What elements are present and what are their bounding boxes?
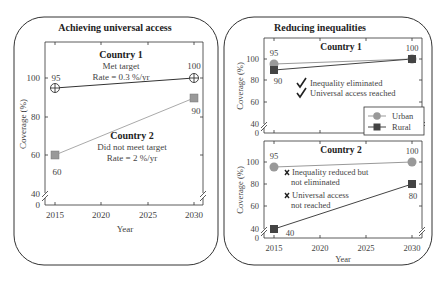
legend-rural-label: Rural	[392, 122, 412, 132]
country1-value-2030: 100	[187, 61, 201, 71]
country2-marker-2030	[190, 94, 198, 102]
country2-marker-2015	[51, 151, 59, 159]
left-panel-title: Achieving universal access	[58, 22, 171, 33]
legend-rural-marker	[374, 124, 381, 131]
x-axis-label: Year	[117, 224, 134, 234]
x-tick-2030: 2030	[185, 210, 204, 220]
bottom-rural-marker-2030	[408, 180, 416, 188]
top-rural-line	[274, 59, 412, 70]
bottom-y-tick-100: 100	[246, 157, 259, 167]
country1-value-2015: 95	[52, 73, 62, 83]
bottom-note-inequality-line1: Inequality reduced but	[292, 167, 369, 177]
country2-value-2030: 90	[192, 106, 202, 116]
top-y-tick-0: 0	[255, 128, 259, 138]
country1-title: Country 1	[99, 49, 143, 60]
bottom-urban-marker-2015	[270, 163, 279, 172]
x-tick-2030: 2030	[404, 243, 421, 253]
check-icon	[297, 88, 306, 97]
legend-urban-marker	[373, 112, 381, 120]
bottom-y-tick-80: 80	[251, 179, 260, 189]
bottom-y-axis-label: Coverage (%)	[235, 166, 245, 214]
top-y-tick-80: 80	[251, 75, 260, 85]
y-tick-0: 0	[36, 200, 41, 210]
top-note-inequality: Inequality eliminated	[310, 78, 383, 88]
bottom-y-tick-0: 0	[255, 233, 259, 243]
check-icon	[297, 78, 306, 87]
left-panel: Achieving universal access 100	[14, 17, 218, 265]
y-tick-40: 40	[31, 189, 41, 199]
top-rural-marker-2015	[270, 66, 278, 74]
top-urban-value-2015: 95	[270, 48, 279, 58]
x-tick-2015: 2015	[266, 243, 283, 253]
x-tick-2020: 2020	[312, 243, 329, 253]
cross-icon	[285, 170, 289, 175]
country1-marker-2015	[51, 84, 60, 93]
top-y-tick-60: 60	[251, 97, 260, 107]
top-subplot-title: Country 1	[320, 42, 362, 52]
y-tick-80: 80	[31, 112, 41, 122]
country2-rate: Rate = 2 %/yr	[107, 153, 157, 163]
bottom-rural-marker-2015	[270, 225, 278, 233]
country2-value-2015: 60	[53, 167, 63, 177]
bottom-note-inequality-line2: not eliminated	[291, 177, 341, 187]
bottom-rural-value-2030: 80	[409, 191, 418, 201]
top-rural-marker-2030	[408, 55, 416, 63]
top-urban-line	[274, 59, 412, 64]
right-panel-title: Reducing inequalities	[274, 22, 366, 33]
top-value-2030: 100	[406, 43, 419, 53]
bottom-note-access-line1: Universal access	[292, 190, 349, 200]
country1-marker-2030	[190, 74, 199, 83]
top-y-tick-100: 100	[246, 54, 259, 64]
bottom-rural-value-2015: 40	[286, 228, 295, 238]
legend: Urban Rural	[364, 107, 424, 135]
x-tick-2025: 2025	[358, 243, 375, 253]
bottom-urban-marker-2030	[408, 158, 417, 167]
right-panel: Reducing inequalities 100 80 60 40 0 Cov…	[224, 17, 432, 265]
x-tick-2015: 2015	[46, 210, 65, 220]
bottom-note-access-line2: not reached	[291, 200, 331, 210]
bottom-subplot-title: Country 2	[320, 145, 362, 155]
legend-urban-label: Urban	[392, 111, 414, 121]
right-x-axis-label: Year	[335, 254, 351, 264]
cross-icon	[285, 193, 289, 198]
x-tick-2025: 2025	[139, 210, 158, 220]
country1-status: Met target	[102, 61, 140, 71]
bottom-y-tick-60: 60	[251, 201, 260, 211]
y-axis-label: Coverage (%)	[18, 99, 28, 149]
top-note-access: Universal access reached	[310, 88, 396, 98]
figure: Achieving universal access 100	[0, 0, 444, 282]
bottom-urban-value-2030: 100	[406, 146, 419, 156]
y-tick-60: 60	[31, 150, 41, 160]
top-rural-value-2015: 90	[274, 76, 283, 86]
country2-title: Country 2	[110, 130, 154, 141]
bottom-urban-value-2015: 95	[270, 151, 279, 161]
y-tick-100: 100	[27, 73, 41, 83]
top-y-axis-label: Coverage (%)	[235, 62, 245, 110]
country1-rate: Rate = 0.3 %/yr	[92, 72, 149, 82]
country2-status: Did not meet target	[97, 142, 167, 152]
x-tick-2020: 2020	[92, 210, 111, 220]
